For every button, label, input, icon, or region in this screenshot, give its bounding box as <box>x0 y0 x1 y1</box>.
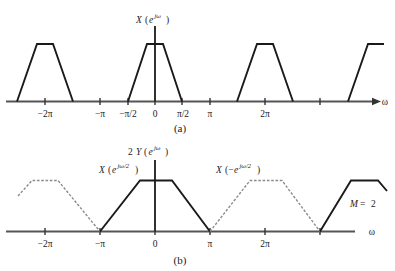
panel-a-x-axis-arrowhead <box>372 98 381 105</box>
panel-a-trapezoid-4pi-clipped <box>348 44 384 102</box>
panel-b-parameter-value: 2 <box>371 199 376 209</box>
panel-a-tick-label-pi-over-2: π/2 <box>177 109 189 119</box>
panel-b-plot: 2 Y ( e jω ) X ( e jω/2 ) X (− e jω/2 ) … <box>0 136 395 271</box>
panel-a-tick-label-pi: π <box>208 109 213 119</box>
panel-b-dotted-trapezoid-2pi <box>210 181 320 232</box>
panel-b-caption: (b) <box>174 254 187 267</box>
panel-b-left-label-exponent: jω/2 <box>117 162 130 169</box>
panel-b-tick-label-zero: 0 <box>153 239 158 249</box>
panel-b-signal-label-close: ) <box>165 147 168 158</box>
panel-b-left-label-open: ( <box>108 165 111 176</box>
panel-a-axis-label: ω <box>382 97 388 107</box>
panel-a-signal-label-open: ( <box>145 15 148 26</box>
panel-b-right-label-x: X <box>215 165 223 175</box>
panel-b-left-label-e: e <box>112 165 116 175</box>
panel-b-signal-label-open: ( <box>144 147 147 158</box>
panel-b-tick-label-minus-2pi: −2π <box>38 239 53 249</box>
panel-a-signal-label-e: e <box>149 15 153 25</box>
panel-a-tick-label-minus-2pi: −2π <box>38 109 53 119</box>
panel-b-axis-label: ω <box>369 227 375 237</box>
panel-b-left-component-label: X ( e jω/2 ) <box>98 162 138 176</box>
panel-b-tick-label-minus-pi: −π <box>95 239 105 249</box>
panel-b-left-label-x: X <box>98 165 106 175</box>
panel-b-signal-label: 2 Y ( e jω ) <box>128 144 168 158</box>
panel-a-plot: X ( e jω ) −2π −π −π/2 0 π/2 π 2π ω (a) <box>0 0 395 136</box>
panel-b-signal-label-e: e <box>149 147 153 157</box>
figure-page: X ( e jω ) −2π −π −π/2 0 π/2 π 2π ω (a) <box>0 0 395 271</box>
panel-b-parameter-equals: = <box>360 199 365 209</box>
panel-b-right-label-close: ) <box>257 165 260 176</box>
panel-a-signal-label-exponent: jω <box>154 12 162 19</box>
panel-a-tick-label-minus-pi-over-2: −π/2 <box>119 109 137 119</box>
panel-b-parameter-name: M <box>349 199 359 209</box>
panel-b-right-label-exponent: jω/2 <box>239 162 252 169</box>
panel-a-caption: (a) <box>174 122 187 135</box>
panel-a-signal-label: X ( e jω ) <box>135 12 169 26</box>
panel-b-right-label-open: (− <box>225 165 234 176</box>
panel-b-signal-label-two: 2 <box>128 147 133 157</box>
panel-b-dotted-trapezoid-minus-2pi <box>18 181 100 232</box>
panel-a-signal-label-x: X <box>135 15 143 25</box>
panel-a-trapezoid-2pi <box>237 44 293 102</box>
panel-a-tick-label-minus-pi: −π <box>95 109 105 119</box>
panel-b-left-label-close: ) <box>135 165 138 176</box>
panel-b-right-label-e: e <box>234 165 238 175</box>
panel-b-signal-label-y: Y <box>136 147 143 157</box>
panel-b-tick-label-pi: π <box>208 239 213 249</box>
panel-a-tick-label-zero: 0 <box>153 109 158 119</box>
panel-a-signal-label-close: ) <box>166 15 169 26</box>
panel-b-tick-label-2pi: 2π <box>260 239 270 249</box>
panel-a-tick-label-2pi: 2π <box>260 109 270 119</box>
panel-b-signal-label-exponent: jω <box>153 144 161 151</box>
panel-a-trapezoid-minus-2pi <box>17 44 73 102</box>
panel-b-parameter-label: M = 2 <box>349 199 376 209</box>
panel-b-right-component-label: X (− e jω/2 ) <box>215 162 260 176</box>
